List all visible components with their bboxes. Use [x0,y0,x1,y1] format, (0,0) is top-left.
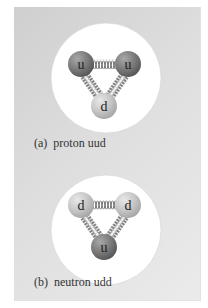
svg-text:u: u [78,57,85,72]
svg-text:d: d [101,99,108,114]
gluon-spring-icon [92,200,118,210]
neutron-boundary [51,175,161,285]
up-quark-icon: u [68,51,94,77]
neutron-diagram: d d u [51,175,161,285]
proton-diagram: u u d [51,23,161,133]
gluon-spring-icon [92,59,118,69]
up-quark-icon: u [115,51,141,77]
svg-text:d: d [125,198,132,213]
svg-text:u: u [101,240,108,255]
down-quark-icon: d [91,93,117,119]
neutron-caption: (b) neutron udd [34,275,112,290]
down-quark-icon: d [115,192,141,218]
proton-caption: (a) proton uud [34,136,106,151]
up-quark-icon: u [91,234,117,260]
down-quark-icon: d [68,192,94,218]
quark-diagram: u u d d d u [0,0,208,308]
svg-text:d: d [78,198,85,213]
svg-text:u: u [125,57,132,72]
